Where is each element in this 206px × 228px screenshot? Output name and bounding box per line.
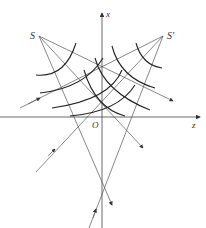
wavefronts-S [36,43,135,116]
rays-to-S-prime [20,36,163,228]
wavefronts-S-prime [84,43,162,116]
axis-label-z: z [191,120,196,130]
source-label-S-prime: S' [167,30,175,41]
wave-interference-diagram: S S' x z O [0,0,206,228]
source-label-S: S [30,30,35,41]
origin-label: O [92,120,99,130]
axis-label-x: x [105,9,110,19]
